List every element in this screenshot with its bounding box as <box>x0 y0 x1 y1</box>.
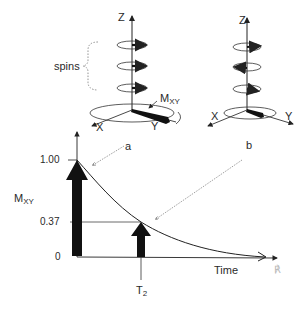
mxy-arrow-t2 <box>131 222 151 257</box>
callout-b-line <box>156 160 242 219</box>
y-tick-100: 1.00 <box>40 155 59 165</box>
t2-label: T2 <box>136 285 147 298</box>
x-label-b: X <box>211 111 218 122</box>
graph-x-axis <box>77 257 277 258</box>
y-label-b: Y <box>285 111 292 122</box>
panel-b-label: b <box>246 140 252 151</box>
z-label-b: Z <box>239 15 246 26</box>
x-label-a: X <box>96 122 103 133</box>
decay-curve <box>77 160 265 257</box>
panel-a-spin-diagram <box>83 16 181 126</box>
y-tick-037: 0.37 <box>40 217 59 227</box>
watermark-glyph: ℟ <box>274 265 281 275</box>
spins-brace <box>83 42 98 90</box>
panel-b-spin-diagram <box>208 18 293 126</box>
mxy-arrow-t0 <box>66 160 88 256</box>
mxy-label-a: MXY <box>160 93 180 106</box>
y-label-a: Y <box>151 121 158 132</box>
x-axis-label: Time <box>214 265 238 276</box>
mxy-vector-b <box>246 109 264 118</box>
spins-label: spins <box>54 61 80 72</box>
callout-a-line <box>93 146 124 165</box>
panel-a-label: a <box>125 141 131 152</box>
z-label-a: Z <box>118 12 125 23</box>
decay-graph <box>66 132 277 280</box>
y-tick-0: 0 <box>55 252 61 262</box>
y-axis-label: MXY <box>14 193 34 206</box>
